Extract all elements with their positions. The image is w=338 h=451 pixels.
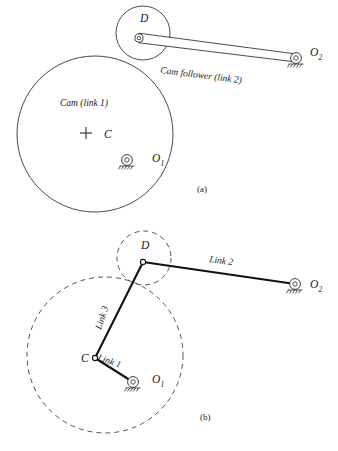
pivot-d-a [135, 34, 143, 42]
diagram-b-group: D C O 1 O 2 Link 1 Link 2 Link 3 (b) [27, 231, 323, 433]
ground-pivot-o1-a [118, 155, 134, 170]
label-point-o1-a: O 1 [152, 152, 164, 168]
label-cam-follower-link2-a: Cam follower (link 2) [160, 65, 243, 86]
label-link-2-b: Link 2 [208, 254, 234, 267]
ground-pivot-o2-b [286, 279, 302, 294]
label-link-3-b: Link 3 [93, 304, 110, 331]
label-point-d-a: D [139, 12, 149, 24]
label-cam-link1-a: Cam (link 1) [60, 98, 108, 109]
label-point-c-a: C [104, 128, 112, 140]
label-o2-subscript-b: 2 [319, 285, 323, 294]
label-point-c-b: C [81, 352, 89, 364]
label-o2-subscript-a: 2 [319, 53, 323, 62]
cam-follower-bar [139, 33, 296, 62]
label-point-o2-a: O 2 [310, 46, 323, 62]
caption-b: (b) [200, 412, 211, 422]
caption-a: (a) [197, 184, 207, 194]
label-point-d-b: D [140, 239, 150, 251]
cam-center-cross-marker [80, 127, 92, 139]
label-point-o2-b: O 2 [310, 278, 323, 294]
figure-container: D C O 1 O 2 Cam (link 1) Cam follower (l… [0, 0, 338, 451]
cam-circle-a [17, 56, 173, 212]
node-d-b [140, 259, 145, 264]
label-point-o1-b: O 1 [152, 373, 164, 389]
label-o1-subscript-b: 1 [161, 380, 165, 389]
label-o1-subscript-a: 1 [161, 159, 165, 168]
diagram-a-group: D C O 1 O 2 Cam (link 1) Cam follower (l… [17, 6, 323, 212]
mechanism-diagram-svg: D C O 1 O 2 Cam (link 1) Cam follower (l… [0, 0, 338, 451]
